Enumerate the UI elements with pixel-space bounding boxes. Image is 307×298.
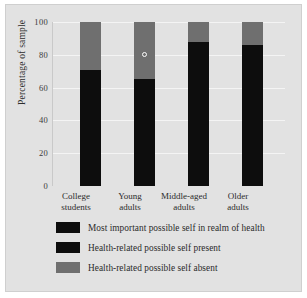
bar-older-adults — [242, 22, 263, 186]
bar-segment-absent — [188, 22, 209, 42]
bar-middle-aged-adults — [188, 22, 209, 186]
y-tick-label-60: 60 — [39, 83, 48, 93]
chart-legend: Most important possible self in realm of… — [56, 219, 296, 279]
x-tick-label-older-adults: Older adults — [206, 191, 270, 212]
bar-segment-present — [80, 70, 101, 186]
legend-label: Health-related possible self absent — [88, 263, 218, 273]
plot-area: 100 80 60 40 20 0 — [53, 22, 285, 186]
legend-item-most-important: Most important possible self in realm of… — [56, 219, 296, 236]
y-tick-label-100: 100 — [34, 17, 48, 27]
bar-segment-absent — [242, 22, 263, 45]
bar-segment-present — [134, 79, 155, 186]
x-tick-line1: Older — [206, 191, 270, 202]
legend-swatch-icon — [56, 262, 80, 273]
bar-young-adults — [134, 22, 155, 186]
y-tick-label-0: 0 — [43, 181, 48, 191]
x-tick-line2: adults — [206, 202, 270, 213]
gridline-0: 0 — [53, 186, 285, 187]
legend-swatch-icon — [56, 242, 80, 253]
bar-segment-present — [188, 42, 209, 186]
bar-segment-absent — [80, 22, 101, 70]
y-axis-title: Percentage of sample — [17, 20, 27, 105]
legend-swatch-icon — [56, 222, 80, 233]
chart-figure: Percentage of sample 100 80 60 40 20 0 — [5, 4, 302, 292]
y-tick-label-80: 80 — [39, 50, 48, 60]
y-axis-line — [52, 22, 53, 186]
legend-label: Health-related possible self present — [88, 243, 221, 253]
bar-college-students — [80, 22, 101, 186]
y-tick-label-20: 20 — [39, 148, 48, 158]
y-tick-label-40: 40 — [39, 115, 48, 125]
bar-segment-present — [242, 45, 263, 186]
legend-item-present: Health-related possible self present — [56, 239, 296, 256]
legend-item-absent: Health-related possible self absent — [56, 259, 296, 276]
bar-segment-absent — [134, 22, 155, 79]
legend-label: Most important possible self in realm of… — [88, 223, 265, 233]
